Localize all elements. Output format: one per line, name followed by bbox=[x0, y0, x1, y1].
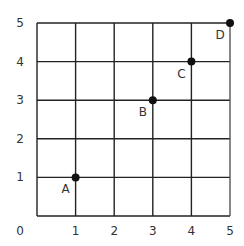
axis-tick-labels: 01234512345 bbox=[16, 16, 234, 238]
x-tick-label: 4 bbox=[188, 224, 196, 238]
y-tick-label: 5 bbox=[16, 16, 24, 30]
x-tick-label: 0 bbox=[16, 224, 24, 238]
point-c bbox=[187, 58, 195, 66]
point-d bbox=[226, 19, 234, 27]
y-tick-label: 4 bbox=[16, 55, 24, 69]
point-label: D bbox=[215, 28, 224, 42]
point-b bbox=[149, 96, 157, 104]
y-tick-label: 2 bbox=[16, 132, 24, 146]
point-label: A bbox=[61, 182, 70, 196]
point-a bbox=[72, 173, 80, 181]
point-label: C bbox=[177, 67, 185, 81]
y-tick-label: 3 bbox=[16, 93, 24, 107]
x-tick-label: 3 bbox=[149, 224, 157, 238]
point-label: B bbox=[139, 105, 147, 119]
x-tick-label: 5 bbox=[226, 224, 234, 238]
data-points: ABCD bbox=[61, 19, 234, 196]
y-tick-label: 1 bbox=[16, 170, 24, 184]
x-tick-label: 2 bbox=[110, 224, 118, 238]
coordinate-grid: 01234512345 ABCD bbox=[0, 0, 244, 246]
x-tick-label: 1 bbox=[72, 224, 80, 238]
